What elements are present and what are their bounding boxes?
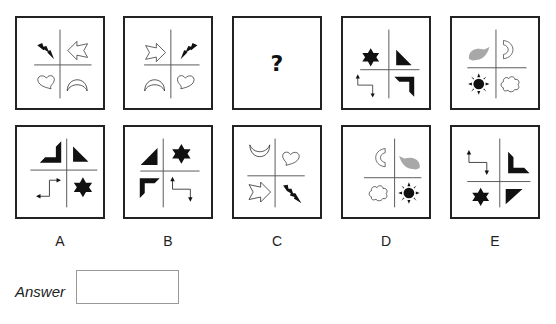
option-a-panel[interactable] xyxy=(15,125,105,219)
crescent-icon xyxy=(250,145,270,157)
option-e-panel[interactable] xyxy=(450,125,540,219)
triangle-icon xyxy=(396,50,411,65)
triangle-icon xyxy=(506,189,523,204)
star-icon xyxy=(362,48,379,66)
heart-icon xyxy=(178,76,195,89)
crescent-icon xyxy=(503,41,512,59)
zigzag-arrow-icon xyxy=(36,178,61,199)
arrow-left-icon xyxy=(68,41,88,59)
star-icon xyxy=(74,177,92,197)
lightning-icon xyxy=(37,43,54,59)
sequence-panel-2 xyxy=(123,16,213,110)
option-c-label[interactable]: C xyxy=(230,233,324,249)
arrow-right-icon xyxy=(249,182,271,202)
sun-icon xyxy=(468,73,489,94)
heart-icon xyxy=(283,152,300,165)
sequence-panel-1 xyxy=(15,16,105,110)
zigzag-arrow-icon xyxy=(170,177,192,202)
quadrant-figure xyxy=(452,127,538,217)
chevron-corner-icon xyxy=(140,178,160,198)
quadrant-figure xyxy=(17,18,103,108)
star-icon xyxy=(472,188,489,206)
answer-input[interactable] xyxy=(76,270,179,304)
lightning-icon xyxy=(283,185,301,203)
quadrant-figure xyxy=(125,18,211,108)
quadrant-figure xyxy=(125,127,211,217)
zigzag-arrow-icon xyxy=(356,74,375,97)
option-e-label[interactable]: E xyxy=(448,233,542,249)
quadrant-figure xyxy=(343,18,429,108)
leaf-icon xyxy=(399,156,420,170)
lightning-icon xyxy=(181,43,198,59)
option-d-label[interactable]: D xyxy=(339,233,433,249)
crescent-icon xyxy=(145,80,165,91)
crescent-icon xyxy=(376,149,385,167)
chevron-corner-icon xyxy=(40,141,61,162)
option-b-label[interactable]: B xyxy=(121,233,215,249)
crescent-icon xyxy=(67,80,87,91)
answer-label: Answer xyxy=(15,283,65,300)
heart-icon xyxy=(38,76,55,89)
sun-icon xyxy=(398,182,419,203)
option-d-panel[interactable] xyxy=(341,125,431,219)
option-b-panel[interactable] xyxy=(123,125,213,219)
quadrant-figure xyxy=(343,127,429,217)
chevron-corner-icon xyxy=(508,152,529,173)
quadrant-figure xyxy=(234,127,320,217)
cloud-icon xyxy=(369,186,387,201)
zigzag-arrow-icon xyxy=(467,150,489,175)
quadrant-figure xyxy=(452,18,538,108)
sequence-panel-missing: ? xyxy=(232,16,322,110)
star-icon xyxy=(172,144,190,164)
sequence-panel-4 xyxy=(341,16,431,110)
question-mark: ? xyxy=(234,18,320,108)
option-a-label[interactable]: A xyxy=(13,233,107,249)
quadrant-figure xyxy=(17,127,103,217)
triangle-icon xyxy=(73,146,88,161)
chevron-corner-icon xyxy=(394,77,414,97)
arrow-right-icon xyxy=(146,43,166,61)
option-c-panel[interactable] xyxy=(232,125,322,219)
sequence-panel-5 xyxy=(450,16,540,110)
leaf-icon xyxy=(469,47,490,61)
triangle-icon xyxy=(141,148,158,165)
cloud-icon xyxy=(501,77,519,92)
